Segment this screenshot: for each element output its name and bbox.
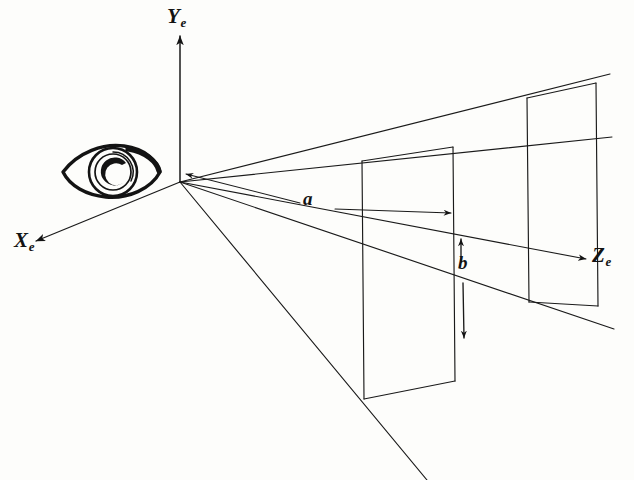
ray-bottom-left [180,182,427,480]
near-plane-left-edge [362,161,364,399]
z-axis-line [180,182,586,259]
axis-label-z: Ze [592,243,611,268]
far-plane-left-edge [527,98,529,302]
axis-label-y: Ye [167,4,186,29]
axis-label-z-base: Z [592,243,605,267]
near-plane-right-edge [453,147,455,381]
ray-bottom-right [180,182,614,329]
dimension-a-right-arm [335,209,451,213]
dimension-a [186,174,451,213]
frustum-figure: Xe Ye Ze a b [0,0,634,480]
near-plane-top-edge [362,147,453,161]
figure-canvas [0,0,634,480]
far-plane-top-edge [527,83,596,98]
axis-label-x-sub: e [29,239,35,254]
eye-pupil [101,157,126,185]
dimension-a-left-arm [186,174,300,203]
ray-top-right [180,137,612,182]
near-clipping-plane [362,147,455,399]
dimension-label-b: b [458,252,468,274]
axis-label-x: Xe [14,228,34,253]
near-plane-bottom-edge [364,381,455,399]
eye-iris-outer [89,148,137,196]
ray-top-left [180,74,610,182]
x-axis-line [36,182,180,241]
dimension-label-a: a [303,188,313,210]
eye-symbol [63,145,160,197]
axis-label-z-sub: e [606,254,612,269]
far-plane-right-edge [596,83,598,306]
axis-label-y-sub: e [181,15,187,30]
far-clipping-plane [527,83,598,306]
dimension-b-down-arm [463,283,464,338]
axis-label-x-base: X [14,228,28,252]
frustum-ray-group [180,74,614,480]
axis-label-y-base: Y [167,4,180,28]
